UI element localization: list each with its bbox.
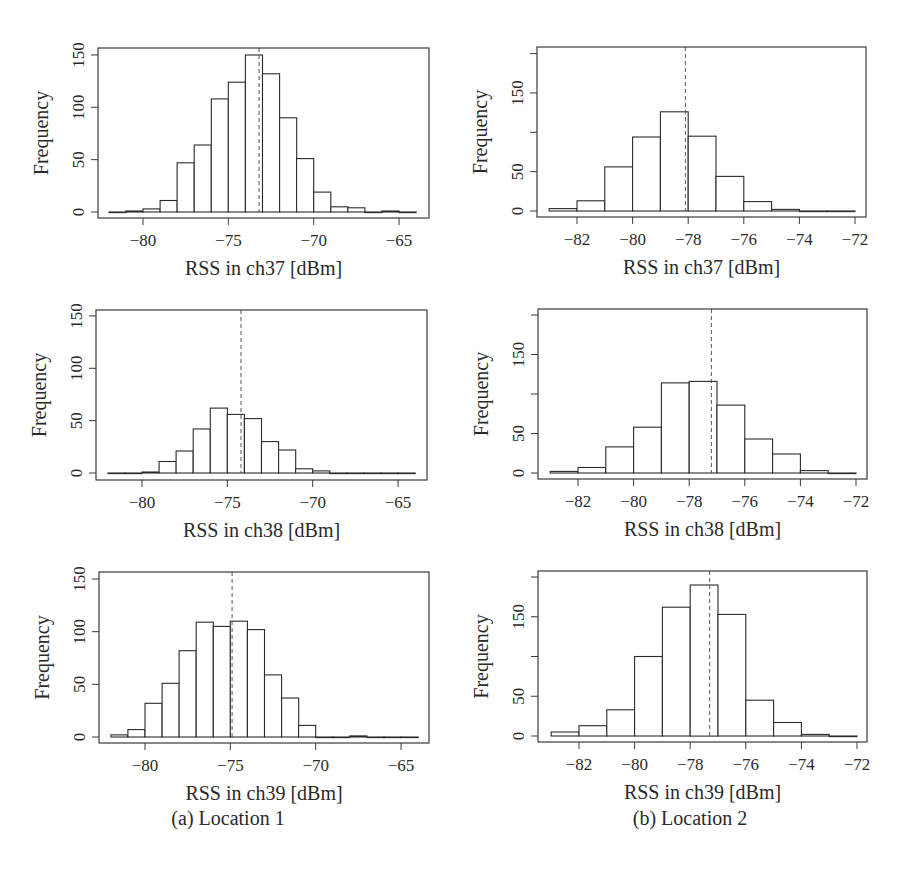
histogram-bar xyxy=(773,454,801,473)
histogram-bar xyxy=(690,585,718,736)
x-axis: −82−80−78−76−74−72 xyxy=(565,479,870,511)
x-tick-label: −82 xyxy=(564,230,591,249)
y-axis-label: Frequency xyxy=(470,614,493,698)
histogram-panel-loc1-ch38: −80−75−70−65RSS in ch38 [dBm]050100150Fr… xyxy=(28,303,427,541)
y-axis: 050100150 xyxy=(67,303,96,477)
histogram-bar xyxy=(829,736,857,737)
histogram-bar xyxy=(159,462,176,474)
histogram-bar xyxy=(179,651,196,737)
histogram-bar xyxy=(262,442,279,473)
x-tick-label: −80 xyxy=(132,756,159,775)
histogram-bar xyxy=(605,167,633,211)
histogram-bar xyxy=(265,675,282,737)
y-tick-label: 100 xyxy=(70,619,89,645)
histogram-bar xyxy=(244,419,261,473)
x-axis-label: RSS in ch39 [dBm] xyxy=(185,782,342,804)
y-axis: 050100150 xyxy=(70,566,99,741)
y-tick-label: 100 xyxy=(67,356,86,382)
y-axis: 050150 xyxy=(509,577,538,740)
histogram-bar xyxy=(245,55,262,212)
x-tick-label: −82 xyxy=(566,755,593,774)
histogram-bar xyxy=(111,735,128,737)
histogram-bar xyxy=(333,737,350,738)
histogram-bar xyxy=(606,447,634,473)
y-tick-label: 50 xyxy=(508,163,527,180)
x-tick-label: −65 xyxy=(388,756,415,775)
histogram-bar xyxy=(718,614,746,736)
y-tick-label: 50 xyxy=(67,412,86,429)
histogram-bar xyxy=(210,408,227,473)
histogram-bar xyxy=(177,163,194,212)
histogram-bar xyxy=(607,710,635,736)
histogram-bar xyxy=(828,473,856,474)
y-tick-label: 0 xyxy=(67,469,86,478)
x-tick-label: −72 xyxy=(842,230,869,249)
x-axis: −80−75−70−65 xyxy=(129,480,412,512)
histogram-bar xyxy=(128,730,145,737)
histogram-bar xyxy=(297,159,314,212)
histogram-bar xyxy=(382,211,399,212)
y-tick-label: 150 xyxy=(67,303,86,329)
x-tick-label: −76 xyxy=(732,492,759,511)
histogram-bar xyxy=(316,737,333,738)
histogram-bars xyxy=(108,408,415,474)
histogram-bar xyxy=(162,683,179,737)
x-axis: −82−80−78−76−74−72 xyxy=(566,742,871,774)
x-axis: −80−75−70−65 xyxy=(130,218,413,250)
histogram-bar xyxy=(399,212,416,213)
x-tick-label: −70 xyxy=(299,493,326,512)
histogram-bar xyxy=(398,473,415,474)
histogram-figure: −80−75−70−65RSS in ch37 [dBm]050100150Fr… xyxy=(0,0,899,874)
histogram-bar xyxy=(772,209,800,211)
x-tick-label: −80 xyxy=(130,231,157,250)
histogram-bar xyxy=(364,473,381,474)
histogram-bars xyxy=(109,55,416,213)
histogram-bar xyxy=(365,212,382,213)
histogram-panel-loc2-ch37: −82−80−78−76−74−72RSS in ch37 [dBm]05015… xyxy=(469,47,868,278)
histogram-bar xyxy=(549,209,577,211)
y-tick-label: 150 xyxy=(509,604,528,630)
histogram-bar xyxy=(247,630,264,737)
histogram-bar xyxy=(145,703,162,737)
x-axis-label: RSS in ch37 [dBm] xyxy=(623,256,780,278)
x-tick-label: −78 xyxy=(676,492,703,511)
x-tick-label: −75 xyxy=(215,231,242,250)
y-tick-label: 150 xyxy=(70,566,89,592)
histogram-bar xyxy=(716,176,744,211)
y-axis: 050150 xyxy=(508,54,537,216)
histogram-bar xyxy=(160,201,177,213)
histogram-bar xyxy=(689,381,717,473)
x-axis-label: RSS in ch37 [dBm] xyxy=(185,257,342,279)
x-tick-label: −78 xyxy=(677,755,704,774)
histogram-bar xyxy=(350,736,367,737)
caption-location-2: (b) Location 2 xyxy=(633,807,747,830)
x-tick-label: −76 xyxy=(733,755,760,774)
histogram-bar xyxy=(801,734,829,736)
histogram-bar xyxy=(348,208,365,212)
x-tick-label: −74 xyxy=(786,230,813,249)
y-tick-label: 0 xyxy=(69,208,88,217)
histogram-bar xyxy=(228,82,245,212)
x-tick-label: −80 xyxy=(129,493,156,512)
histogram-bar xyxy=(746,700,774,736)
histogram-bar xyxy=(688,136,716,211)
histogram-bar xyxy=(299,725,316,737)
histogram-bar xyxy=(774,723,802,737)
histogram-bar xyxy=(330,473,347,474)
y-axis-label: Frequency xyxy=(470,352,493,436)
histogram-bar xyxy=(577,201,605,211)
histogram-bar xyxy=(126,211,143,212)
histogram-bar xyxy=(143,209,160,212)
x-tick-label: −78 xyxy=(675,230,702,249)
histogram-bars xyxy=(550,381,856,473)
histogram-bar xyxy=(313,471,330,473)
histogram-bar xyxy=(744,202,772,211)
histogram-panel-loc1-ch37: −80−75−70−65RSS in ch37 [dBm]050100150Fr… xyxy=(30,42,429,279)
histogram-bar xyxy=(125,473,142,474)
y-axis: 050100150 xyxy=(69,42,98,216)
x-axis: −80−75−70−65 xyxy=(132,743,415,775)
histogram-bar xyxy=(800,471,828,473)
x-tick-label: −72 xyxy=(843,492,870,511)
histogram-bar xyxy=(633,137,661,211)
histogram-bar xyxy=(296,469,313,473)
